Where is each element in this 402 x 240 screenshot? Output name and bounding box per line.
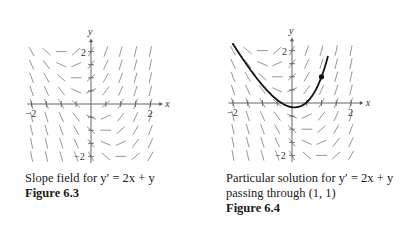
caption-text-line1: Particular solution for y′ = 2x + y xyxy=(226,171,393,186)
caption-text-line2: passing through (1, 1) xyxy=(226,186,393,201)
particular-solution-figure-6-4: xy−222−2 xyxy=(227,25,371,162)
x-axis-label: x xyxy=(365,97,371,108)
axes: xy−222−2 xyxy=(26,26,171,163)
caption-text: Slope field for y′ = 2x + y xyxy=(25,171,155,186)
figure-6-4-caption: Particular solution for y′ = 2x + y pass… xyxy=(226,171,393,216)
x-tick-label-2: 2 xyxy=(348,107,353,118)
y-axis-label: y xyxy=(87,26,93,37)
axes: xy−222−2 xyxy=(227,25,371,162)
y-tick-label-2: 2 xyxy=(282,46,287,57)
y-tick-label-neg2: −2 xyxy=(275,150,286,161)
y-axis-label: y xyxy=(288,25,294,36)
figure-6-3-caption: Slope field for y′ = 2x + y Figure 6.3 xyxy=(25,171,155,201)
x-tick-label-neg2: −2 xyxy=(227,107,238,118)
point-1-1 xyxy=(319,74,324,79)
figure-label: Figure 6.4 xyxy=(226,201,393,216)
y-tick-label-neg2: −2 xyxy=(74,151,85,162)
x-tick-label-neg2: −2 xyxy=(26,108,37,119)
y-tick-label-2: 2 xyxy=(81,47,86,58)
figure-label: Figure 6.3 xyxy=(25,186,155,201)
x-tick-label-2: 2 xyxy=(147,108,152,119)
x-axis-label: x xyxy=(164,98,170,109)
slope-field-figure-6-3: xy−222−2 xyxy=(26,26,171,163)
